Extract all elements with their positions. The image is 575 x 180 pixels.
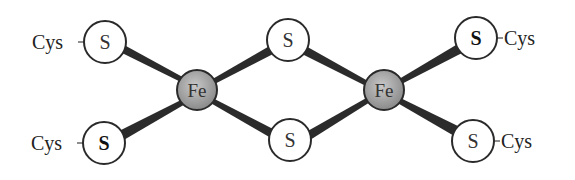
svg-text:S: S <box>284 129 295 151</box>
sulfur-atom-top-left: S <box>84 21 126 63</box>
ligand-label-top-left: Cys <box>32 31 63 54</box>
sulfur-atom-bottom-left: S <box>83 122 125 164</box>
iron-sulfur-cluster-diagram: Cys Cys Cys Cys S S S S S S Fe Fe <box>0 0 575 180</box>
iron-atom-left: Fe <box>177 70 217 110</box>
svg-text:Fe: Fe <box>188 80 207 101</box>
svg-text:S: S <box>99 31 110 53</box>
svg-text:S: S <box>467 130 478 152</box>
ligand-label-top-right: Cys <box>504 27 535 50</box>
sulfur-atom-bottom-right: S <box>452 120 494 162</box>
sulfur-atom-bridge-top: S <box>267 19 309 61</box>
svg-text:Fe: Fe <box>375 80 394 101</box>
ligand-label-bottom-left: Cys <box>31 132 62 155</box>
ligand-label-bottom-right: Cys <box>501 130 532 153</box>
sulfur-atom-bridge-bottom: S <box>269 119 311 161</box>
svg-text:S: S <box>470 27 481 49</box>
iron-atom-right: Fe <box>364 70 404 110</box>
sulfur-atom-top-right: S <box>455 17 497 59</box>
svg-text:S: S <box>98 132 109 154</box>
svg-text:S: S <box>282 29 293 51</box>
